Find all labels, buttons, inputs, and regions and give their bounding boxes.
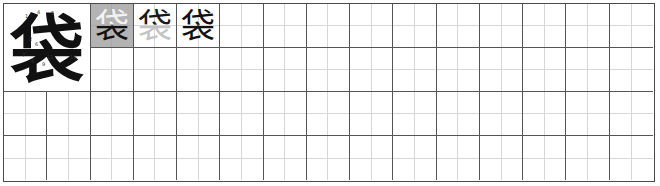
practice-cell[interactable]	[47, 136, 90, 180]
practice-cell[interactable]	[91, 136, 134, 180]
practice-cell[interactable]	[437, 92, 480, 136]
stroke-number: 9	[42, 62, 45, 67]
practice-cell[interactable]	[264, 48, 307, 92]
stroke-number: 8	[31, 59, 34, 64]
practice-cell[interactable]	[393, 48, 436, 92]
practice-cell[interactable]	[307, 136, 350, 180]
model-character-cell: 袋 1 2 3 4 5 6 7 8 9 10 11	[4, 4, 91, 92]
stroke-number: 3	[36, 27, 39, 32]
practice-cell[interactable]	[350, 48, 393, 92]
practice-cell[interactable]	[307, 92, 350, 136]
stroke-number: 5	[51, 11, 54, 16]
practice-cell[interactable]	[350, 136, 393, 180]
practice-cell[interactable]	[91, 92, 134, 136]
practice-cell[interactable]	[350, 92, 393, 136]
practice-cell[interactable]	[177, 48, 220, 92]
practice-cell[interactable]	[4, 92, 47, 136]
practice-cell[interactable]	[566, 4, 609, 48]
practice-cell[interactable]	[610, 48, 653, 92]
stroke-number: 7	[22, 53, 25, 58]
practice-cell[interactable]	[610, 92, 653, 136]
practice-cell[interactable]	[220, 4, 263, 48]
example-character: 袋袋	[179, 7, 217, 45]
stroke-number: 2	[29, 37, 32, 42]
practice-cell[interactable]	[350, 4, 393, 48]
practice-cell[interactable]	[523, 48, 566, 92]
practice-cell[interactable]	[220, 136, 263, 180]
practice-cell[interactable]	[523, 92, 566, 136]
practice-cell[interactable]	[264, 4, 307, 48]
practice-cell[interactable]	[91, 48, 134, 92]
practice-cell[interactable]	[480, 48, 523, 92]
practice-cell[interactable]	[177, 92, 220, 136]
practice-cell[interactable]	[480, 136, 523, 180]
practice-cell[interactable]	[177, 136, 220, 180]
practice-cell[interactable]	[480, 92, 523, 136]
practice-cell[interactable]	[47, 92, 90, 136]
example-character: 袋袋	[136, 7, 174, 45]
example-cell-3: 袋袋	[177, 4, 220, 48]
practice-cell[interactable]	[523, 4, 566, 48]
practice-cell[interactable]	[566, 136, 609, 180]
practice-cell[interactable]	[480, 4, 523, 48]
practice-cell[interactable]	[610, 136, 653, 180]
practice-cell[interactable]	[134, 92, 177, 136]
practice-cell[interactable]	[220, 92, 263, 136]
stroke-number: 11	[47, 55, 53, 60]
practice-cell[interactable]	[393, 92, 436, 136]
stroke-number: 1	[25, 14, 28, 19]
practice-cell[interactable]	[393, 4, 436, 48]
practice-cell[interactable]	[134, 48, 177, 92]
practice-cell[interactable]	[437, 4, 480, 48]
model-character: 袋	[10, 13, 84, 87]
practice-cell[interactable]	[437, 48, 480, 92]
practice-cell[interactable]	[566, 48, 609, 92]
practice-cell[interactable]	[523, 136, 566, 180]
practice-cell[interactable]	[437, 136, 480, 180]
practice-cell[interactable]	[134, 136, 177, 180]
practice-cell[interactable]	[220, 48, 263, 92]
example-character: 袋袋	[93, 7, 131, 45]
practice-cell[interactable]	[264, 92, 307, 136]
practice-cell[interactable]	[264, 136, 307, 180]
practice-cell[interactable]	[566, 92, 609, 136]
practice-cell[interactable]	[393, 136, 436, 180]
stroke-number: 6	[35, 42, 38, 47]
example-cell-1: 袋袋	[91, 4, 134, 48]
stroke-number: 4	[37, 10, 40, 15]
example-cell-2: 袋袋	[134, 4, 177, 48]
practice-cell[interactable]	[610, 4, 653, 48]
practice-cell[interactable]	[307, 48, 350, 92]
practice-cell[interactable]	[4, 136, 47, 180]
stroke-number: 10	[70, 55, 76, 60]
practice-grid: 袋 1 2 3 4 5 6 7 8 9 10 11 袋袋袋袋袋袋	[3, 3, 655, 182]
practice-cell[interactable]	[307, 4, 350, 48]
